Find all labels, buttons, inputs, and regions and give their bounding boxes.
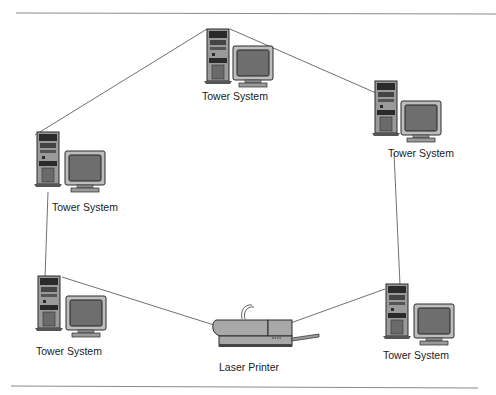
monitor-top bbox=[233, 46, 273, 87]
monitor-right-upper bbox=[401, 101, 441, 142]
label-tower-left-upper: Tower System bbox=[52, 201, 118, 213]
monitor-left-upper bbox=[65, 151, 105, 192]
label-laser-printer: Laser Printer bbox=[219, 361, 279, 373]
tower-system-top bbox=[204, 29, 232, 84]
label-tower-top: Tower System bbox=[202, 90, 268, 102]
laser-printer bbox=[213, 305, 319, 347]
label-tower-right-lower: Tower System bbox=[383, 349, 449, 361]
tower-system-right-lower bbox=[383, 284, 411, 339]
monitor-right-lower bbox=[414, 304, 454, 345]
network-diagram bbox=[0, 0, 496, 395]
tower-system-left-lower bbox=[35, 276, 63, 331]
bottom-rule bbox=[11, 386, 478, 388]
label-tower-left-lower: Tower System bbox=[36, 345, 102, 357]
label-tower-right-upper: Tower System bbox=[388, 147, 454, 159]
monitor-left-lower bbox=[66, 296, 106, 337]
tower-system-left-upper bbox=[34, 132, 62, 187]
top-rule bbox=[16, 13, 496, 14]
tower-system-right-upper bbox=[372, 81, 400, 136]
